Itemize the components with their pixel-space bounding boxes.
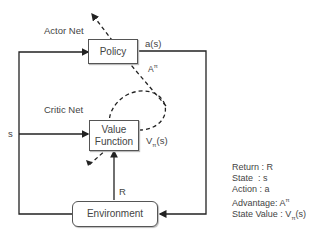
legend-state-value-suffix: (s): [296, 209, 307, 219]
value-argument: (s): [156, 135, 167, 146]
advantage-label: Aπ: [148, 63, 158, 73]
critic-net-label: Critic Net: [44, 105, 83, 115]
environment-node: Environment: [72, 201, 158, 227]
state-feedback-line: [19, 52, 88, 214]
actor-net-label: Actor Net: [44, 26, 84, 36]
return-label: R: [119, 187, 126, 197]
policy-node: Policy: [88, 39, 138, 64]
legend-item-state-value: State Value : Vπ(s): [232, 209, 306, 224]
action-line: [138, 51, 206, 214]
value-function-label-line1: Value: [102, 124, 127, 136]
legend-item-action: Action : a: [232, 184, 306, 195]
value-output-label: Vπ(s): [146, 136, 168, 148]
value-function-label-line2: Function: [95, 136, 133, 148]
state-input-label: s: [8, 129, 13, 139]
environment-node-label: Environment: [87, 208, 143, 220]
legend: Return : R State : s Action : a Advantag…: [232, 162, 306, 224]
legend-item-state: State : s: [232, 173, 306, 184]
legend-state-value-text: State Value : V: [232, 209, 291, 219]
legend-item-advantage: Advantage: Aπ: [232, 195, 306, 209]
value-function-node: Value Function: [89, 120, 139, 151]
advantage-superscript: π: [154, 63, 158, 69]
policy-node-label: Policy: [100, 46, 127, 58]
legend-item-return: Return : R: [232, 162, 306, 173]
legend-advantage-sup: π: [286, 197, 290, 203]
action-output-label: a(s): [145, 39, 161, 49]
legend-advantage-text: Advantage: A: [232, 198, 286, 208]
